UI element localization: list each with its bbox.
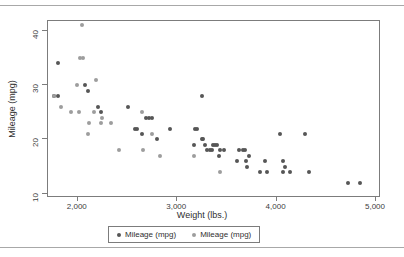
data-point xyxy=(288,170,292,174)
data-point xyxy=(192,143,196,147)
data-point xyxy=(303,132,307,136)
data-point xyxy=(99,110,103,114)
data-point xyxy=(81,56,85,60)
data-point xyxy=(203,143,207,147)
plot-frame xyxy=(47,20,380,197)
scatter-plot-figure: Mileage (mpg) 10203040 2,0003,0004,0005,… xyxy=(0,6,404,246)
y-axis-tick-label: 40 xyxy=(32,30,40,39)
data-point xyxy=(99,121,103,125)
legend-item-label: Mileage (mpg) xyxy=(125,230,176,239)
x-axis-tick xyxy=(276,197,277,201)
data-point xyxy=(86,89,90,93)
chart-legend: Mileage (mpg)Mileage (mpg) xyxy=(108,226,260,243)
data-point xyxy=(80,23,84,27)
data-point xyxy=(158,154,162,158)
data-point xyxy=(77,110,81,114)
data-point xyxy=(126,105,130,109)
bottom-divider xyxy=(0,247,404,248)
data-point xyxy=(75,83,79,87)
data-point xyxy=(278,132,282,136)
data-point xyxy=(150,132,154,136)
data-point xyxy=(358,181,362,185)
y-axis-title: Mileage (mpg) xyxy=(6,20,18,197)
data-point xyxy=(96,105,100,109)
data-point xyxy=(218,170,222,174)
data-point xyxy=(100,116,104,120)
data-point xyxy=(141,148,145,152)
data-point xyxy=(265,170,269,174)
legend-item[interactable]: Mileage (mpg) xyxy=(117,230,176,239)
data-point xyxy=(150,116,154,120)
data-point xyxy=(245,165,249,169)
data-point xyxy=(195,127,199,131)
legend-item[interactable]: Mileage (mpg) xyxy=(192,230,251,239)
y-axis: 10203040 xyxy=(38,20,47,197)
data-point xyxy=(155,137,159,141)
data-point xyxy=(117,148,121,152)
data-point xyxy=(140,132,144,136)
x-axis-tick xyxy=(375,197,376,201)
data-point xyxy=(59,105,63,109)
data-point xyxy=(168,127,172,131)
data-point xyxy=(215,143,219,147)
x-axis: 2,0003,0004,0005,000 xyxy=(47,197,380,205)
data-point xyxy=(192,154,196,158)
data-point xyxy=(109,121,113,125)
data-point xyxy=(52,94,56,98)
data-point xyxy=(56,94,60,98)
data-point xyxy=(243,148,247,152)
y-axis-title-label: Mileage (mpg) xyxy=(7,80,17,138)
data-point xyxy=(307,170,311,174)
data-point xyxy=(247,154,251,158)
data-point xyxy=(92,110,96,114)
data-point xyxy=(281,159,285,163)
y-axis-tick-label: 10 xyxy=(32,193,40,202)
data-point xyxy=(94,78,98,82)
data-point xyxy=(235,159,239,163)
data-point xyxy=(222,148,226,152)
data-point xyxy=(346,181,350,185)
y-axis-tick-label: 20 xyxy=(32,138,40,147)
data-point xyxy=(140,110,144,114)
data-point xyxy=(87,121,91,125)
legend-item-label: Mileage (mpg) xyxy=(200,230,251,239)
data-point xyxy=(201,137,205,141)
data-point xyxy=(258,170,262,174)
x-axis-tick xyxy=(77,197,78,201)
data-point xyxy=(283,165,287,169)
data-point xyxy=(281,170,285,174)
legend-marker-icon xyxy=(117,233,121,237)
data-point xyxy=(56,61,60,65)
plot-area xyxy=(48,21,379,196)
x-axis-title: Weight (lbs.) xyxy=(0,210,404,220)
data-point xyxy=(69,110,73,114)
data-point xyxy=(217,154,221,158)
data-point xyxy=(135,127,139,131)
y-axis-tick-label: 30 xyxy=(32,84,40,93)
data-point xyxy=(244,159,248,163)
data-point xyxy=(263,159,267,163)
data-point xyxy=(200,94,204,98)
data-point xyxy=(83,83,87,87)
chart-page: Mileage (mpg) 10203040 2,0003,0004,0005,… xyxy=(0,0,404,257)
x-axis-tick xyxy=(176,197,177,201)
data-point xyxy=(210,148,214,152)
legend-marker-icon xyxy=(192,233,196,237)
data-point xyxy=(86,132,90,136)
